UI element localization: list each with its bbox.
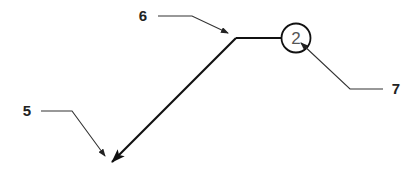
- leader-5: 5: [23, 102, 105, 156]
- reference-label-6: 6: [139, 7, 147, 24]
- reference-label-7: 7: [392, 80, 400, 97]
- leader-6: 6: [139, 7, 228, 33]
- leader-line-6: [158, 16, 228, 33]
- main-line-diagonal: [112, 38, 236, 162]
- diagram-canvas: 2 6 7 5: [0, 0, 420, 172]
- reference-label-5: 5: [23, 102, 31, 119]
- leader-line-5: [41, 111, 105, 156]
- main-line: [112, 38, 282, 162]
- leader-line-7: [301, 43, 383, 89]
- leader-7: 7: [301, 43, 400, 97]
- circle-number: 2: [291, 29, 300, 48]
